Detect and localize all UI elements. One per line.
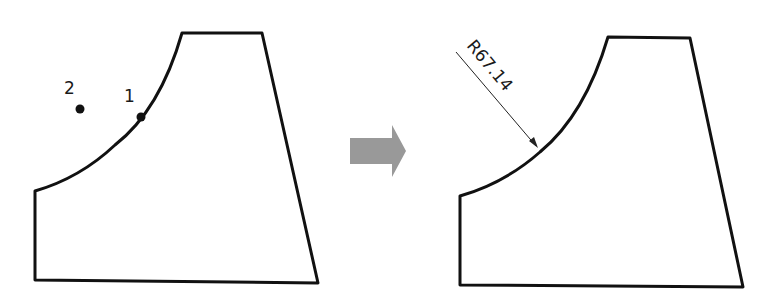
point-1-label: 1	[124, 86, 135, 106]
point-2-marker	[76, 105, 85, 114]
radius-dimension-text: R67.14	[463, 36, 517, 95]
before-outline	[35, 33, 318, 283]
right-arrow-icon	[350, 125, 406, 177]
after-shape: R67.14	[456, 36, 743, 287]
point-2-label: 2	[64, 78, 75, 98]
point-1-marker	[137, 113, 146, 122]
before-shape: 2 1	[35, 33, 318, 283]
diagram-canvas: 2 1 R67.14	[0, 0, 773, 300]
